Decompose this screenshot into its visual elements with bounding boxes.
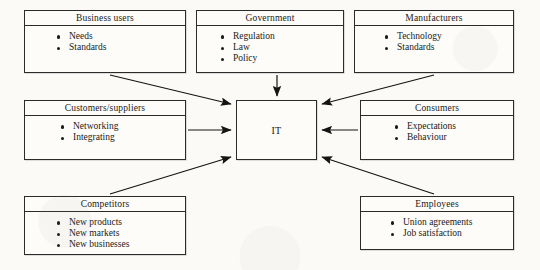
node-employees[interactable]: Employees Union agreements Job satisfact… [360, 196, 514, 250]
node-manufacturers[interactable]: Manufacturers Technology Standards [354, 10, 514, 73]
node-item-list: Networking Integrating [25, 116, 185, 143]
node-item-list: Needs Standards [25, 26, 185, 53]
list-item: Integrating [25, 132, 185, 143]
list-item: New businesses [25, 239, 185, 250]
diagram-canvas: Business users Needs Standards Governmen… [0, 0, 540, 270]
list-item: Needs [25, 31, 185, 42]
arrow-competitors-to-it [110, 157, 231, 194]
node-title: Government [197, 11, 343, 26]
list-item: Expectations [361, 121, 513, 132]
node-title: Consumers [361, 101, 513, 116]
list-item: Standards [355, 42, 513, 53]
arrow-employees-to-it [322, 157, 434, 194]
node-government[interactable]: Government Regulation Law Policy [196, 10, 344, 73]
list-item: Policy [197, 53, 343, 64]
list-item: Law [197, 42, 343, 53]
node-competitors[interactable]: Competitors New products New markets New… [24, 196, 186, 255]
node-customers-suppliers[interactable]: Customers/suppliers Networking Integrati… [24, 100, 186, 160]
node-title: Manufacturers [355, 11, 513, 26]
node-title: Business users [25, 11, 185, 26]
list-item: New markets [25, 228, 185, 239]
node-item-list: Regulation Law Policy [197, 26, 343, 65]
list-item: Union agreements [361, 217, 513, 228]
node-title: Employees [361, 197, 513, 212]
list-item: Behaviour [361, 132, 513, 143]
node-item-list: Technology Standards [355, 26, 513, 53]
node-item-list: New products New markets New businesses [25, 212, 185, 251]
node-title: Customers/suppliers [25, 101, 185, 116]
node-title: Competitors [25, 197, 185, 212]
node-business-users[interactable]: Business users Needs Standards [24, 10, 186, 73]
node-item-list: Union agreements Job satisfaction [361, 212, 513, 239]
it-core-box[interactable]: IT [236, 100, 317, 160]
list-item: Regulation [197, 31, 343, 42]
list-item: Networking [25, 121, 185, 132]
list-item: Job satisfaction [361, 228, 513, 239]
list-item: Standards [25, 42, 185, 53]
node-item-list: Expectations Behaviour [361, 116, 513, 143]
node-consumers[interactable]: Consumers Expectations Behaviour [360, 100, 514, 160]
list-item: Technology [355, 31, 513, 42]
it-label: IT [237, 101, 316, 159]
list-item: New products [25, 217, 185, 228]
